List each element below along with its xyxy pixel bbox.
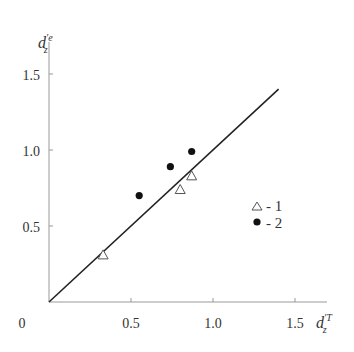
legend-label-1: - 1 (266, 198, 282, 214)
origin-label: 0 (19, 316, 26, 331)
chart-svg: 0.51.01.50.51.01.50d′ezd′Tz- 1- 2 (0, 0, 354, 352)
data-point-series-2 (188, 148, 195, 155)
legend-label-2: - 2 (266, 215, 282, 231)
data-point-series-2 (167, 163, 174, 170)
x-tick-label: 0.5 (122, 316, 140, 331)
x-tick-label: 1.5 (286, 316, 304, 331)
chart: 0.51.01.50.51.01.50d′ezd′Tz- 1- 2 (0, 0, 354, 352)
y-tick-label: 0.5 (23, 220, 41, 235)
legend-marker-1 (252, 202, 262, 210)
reference-line (49, 89, 279, 302)
data-point-series-1 (175, 185, 185, 194)
y-tick-label: 1.0 (23, 144, 41, 159)
y-tick-label: 1.5 (23, 68, 41, 83)
x-axis-label: d′Tz (316, 312, 333, 335)
x-tick-label: 1.0 (204, 316, 222, 331)
legend-marker-2 (253, 218, 260, 225)
data-point-series-2 (136, 192, 143, 199)
y-axis-label: d′ez (38, 32, 53, 55)
